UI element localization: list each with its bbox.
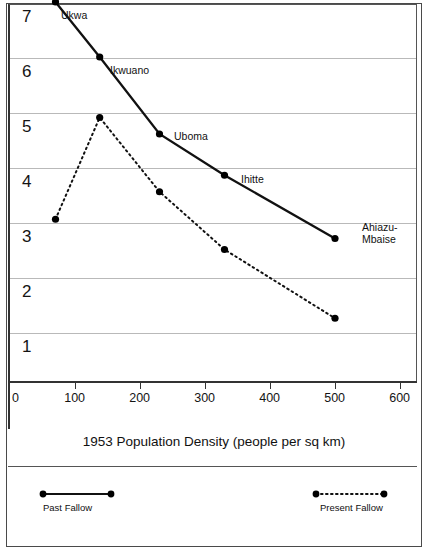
point-label-ahiazu-mbaise-line2: Mbaise (362, 234, 396, 246)
legend-label-past-fallow: Past Fallow (43, 503, 92, 513)
x-tick-label-400: 400 (259, 392, 280, 405)
x-tick-300 (205, 381, 206, 389)
point-label-uboma: Uboma (174, 131, 208, 143)
legend-separator (8, 466, 417, 467)
plot-panel: 1234567 (8, 4, 417, 382)
x-tick-500 (335, 381, 336, 389)
point-label-ihitte: Ihitte (241, 174, 264, 186)
point-label-ahiazu-mbaise-line1: Ahiazu- (362, 222, 398, 234)
legend-swatch-dotted-line (311, 488, 389, 500)
y-tick-label-2: 2 (22, 283, 31, 300)
y-tick-label-5: 5 (22, 118, 31, 135)
gridline-3 (10, 223, 416, 224)
x-tick-100 (75, 381, 76, 389)
gridline-5 (10, 113, 416, 114)
y-tick-label-1: 1 (22, 338, 31, 355)
x-tick-200 (140, 381, 141, 389)
x-tick-label-0: 0 (12, 392, 19, 405)
y-tick-label-6: 6 (22, 63, 31, 80)
legend-label-present-fallow: Present Fallow (320, 503, 383, 513)
y-tick-label-4: 4 (22, 173, 31, 190)
x-tick-label-600: 600 (389, 392, 410, 405)
gridline-6 (10, 58, 416, 59)
gridline-2 (10, 278, 416, 279)
x-tick-label-100: 100 (64, 392, 85, 405)
point-label-ikwuano: Ikwuano (110, 65, 149, 77)
x-tick-label-500: 500 (324, 392, 345, 405)
x-tick-400 (270, 381, 271, 389)
gridline-1 (10, 333, 416, 334)
x-tick-label-200: 200 (129, 392, 150, 405)
x-tick-label-300: 300 (194, 392, 215, 405)
point-label-ukwa: Ukwa (61, 10, 87, 22)
y-tick-label-3: 3 (22, 228, 31, 245)
figure-chart: 1234567 Ukwa Ikwuano Uboma Ihitte Ahiazu… (0, 0, 428, 552)
x-axis-line (8, 381, 417, 383)
legend-swatch-solid-line (38, 488, 116, 500)
x-axis-left-spine (8, 381, 10, 429)
gridline-4 (10, 168, 416, 169)
x-axis-title: 1953 Population Density (people per sq k… (0, 434, 428, 449)
x-tick-600 (400, 381, 401, 389)
y-tick-label-7: 7 (22, 8, 31, 25)
